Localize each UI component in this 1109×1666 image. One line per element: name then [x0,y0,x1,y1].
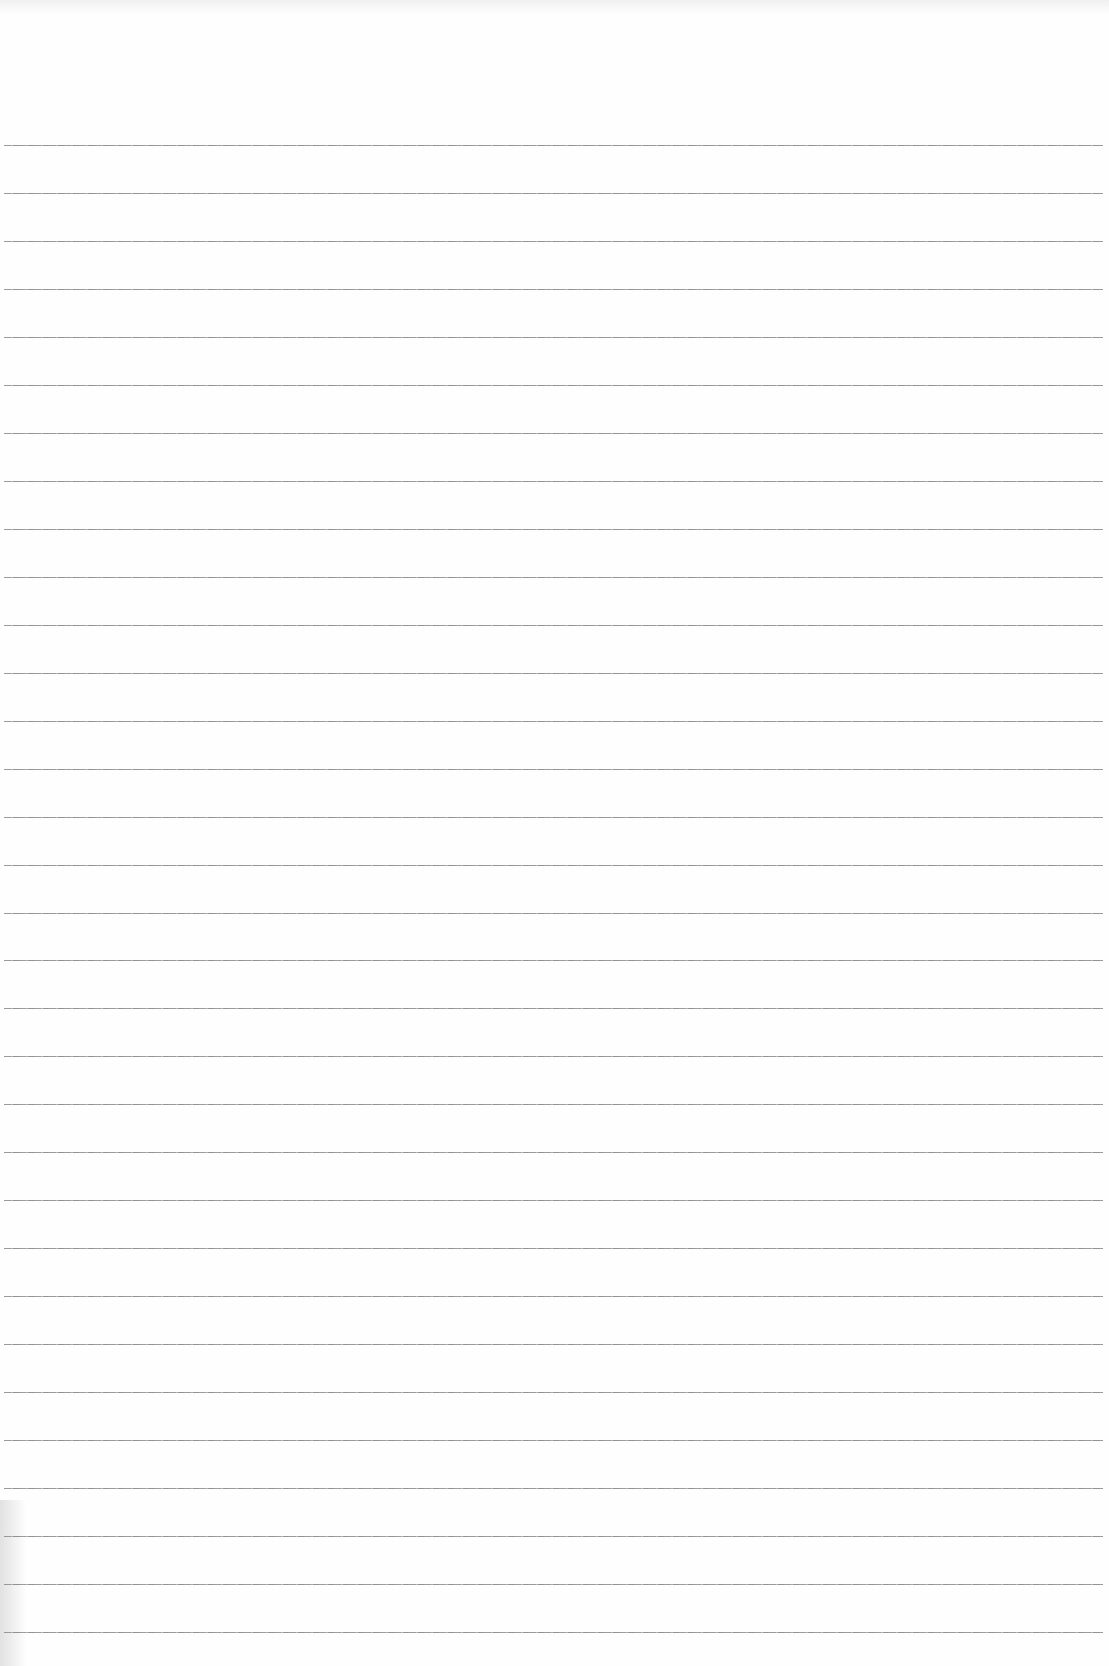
ruled-line [4,817,1103,818]
ruled-line [4,433,1103,434]
ruled-line [4,1536,1103,1537]
ruled-line [4,625,1103,626]
ruled-line [4,1248,1103,1249]
ruled-line [4,1632,1103,1633]
ruled-line [4,913,1103,914]
ruled-line [4,1392,1103,1393]
ruled-line [4,145,1103,146]
ruled-line [4,1344,1103,1345]
ruled-line [4,385,1103,386]
ruled-line [4,721,1103,722]
ruled-line [4,289,1103,290]
ruled-line [4,673,1103,674]
ruled-line [4,1296,1103,1297]
ruled-line [4,529,1103,530]
ruled-line [4,960,1103,961]
ruled-line [4,241,1103,242]
ruled-line [4,1488,1103,1489]
corner-shadow [0,1500,26,1666]
ruled-line [4,1152,1103,1153]
top-edge-bleed [0,0,1109,14]
ruled-line [4,1440,1103,1441]
ruled-line [4,1200,1103,1201]
ruled-line [4,577,1103,578]
ruled-line [4,865,1103,866]
ruled-line [4,337,1103,338]
ruled-line [4,1584,1103,1585]
ruled-line [4,1104,1103,1105]
ruled-line [4,193,1103,194]
ruled-line [4,1056,1103,1057]
ruled-line [4,1008,1103,1009]
lined-paper-sheet [0,0,1109,1666]
ruled-line [4,769,1103,770]
ruled-line [4,481,1103,482]
